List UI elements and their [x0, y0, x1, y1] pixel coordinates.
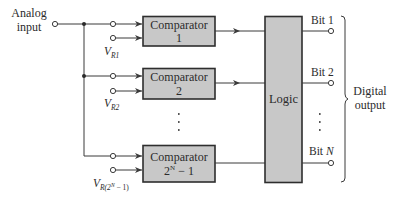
comparator-2-label-line1: Comparator	[150, 70, 207, 84]
comparator-1-label-line2: 1	[176, 31, 182, 45]
bit-1-terminal	[328, 28, 333, 33]
digital-output-label-line1: Digital	[353, 84, 387, 98]
output-bit-n	[302, 160, 334, 165]
bit-n-label: Bit N	[309, 145, 335, 157]
bit-2-terminal	[328, 80, 333, 85]
digital-output-label-line2: output	[355, 98, 386, 112]
analog-input-terminal	[52, 21, 57, 26]
comparator-1-label-line1: Comparator	[150, 18, 207, 32]
comparator-1-inputs	[110, 21, 142, 40]
junction-dot	[82, 22, 86, 26]
output-ellipsis	[319, 113, 321, 131]
logic-label: Logic	[269, 92, 299, 106]
reference-voltage-2-label: VR2	[104, 97, 120, 112]
bit-1-label: Bit 1	[311, 14, 334, 26]
reference-voltage-n-label: VR(2N − 1)	[93, 177, 129, 192]
comparator-n-label-line2: 2N − 1	[164, 164, 194, 178]
comparator-ellipsis	[178, 113, 180, 131]
bit-n-terminal	[328, 160, 333, 165]
analog-input-label-line1: Analog	[11, 6, 46, 20]
comparator-2-inputs	[110, 73, 142, 93]
input-bus	[58, 22, 111, 156]
output-bit-2	[302, 80, 334, 85]
comparator-n-inputs	[110, 153, 142, 172]
output-brace	[341, 16, 348, 182]
junction-dot	[82, 74, 86, 78]
reference-voltage-1-label: VR1	[104, 45, 119, 60]
flash-adc-diagram: Analog input VR1 Comparator 1 VR2 Compar…	[0, 0, 399, 199]
comparator-2-label-line2: 2	[176, 84, 182, 98]
bit-2-label: Bit 2	[311, 66, 334, 78]
output-bit-1	[302, 28, 334, 33]
analog-input-label-line2: input	[17, 20, 42, 34]
comparator-n-label-line1: Comparator	[150, 150, 207, 164]
